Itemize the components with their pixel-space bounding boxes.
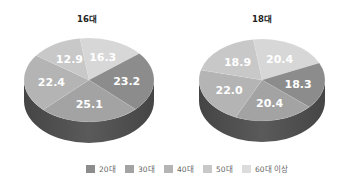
pie-title-16: 16대 bbox=[77, 14, 97, 24]
slice-value-label: 12.9 bbox=[56, 53, 83, 66]
slice-value-label: 23.2 bbox=[113, 75, 140, 88]
slice-value-label: 22.4 bbox=[38, 76, 65, 89]
pie-chart-16: 16대 16.323.225.122.412.9 bbox=[24, 14, 154, 143]
pie-chart-18: 18대 20.418.320.422.018.9 bbox=[199, 14, 325, 142]
legend-swatch-50s bbox=[203, 165, 212, 173]
legend-label-30s: 30대 bbox=[138, 165, 155, 174]
pie-title-18: 18대 bbox=[252, 14, 272, 24]
legend-label-20s: 20대 bbox=[99, 165, 116, 174]
legend-swatch-40s bbox=[164, 165, 173, 173]
slice-value-label: 20.4 bbox=[266, 53, 293, 66]
slice-value-label: 22.0 bbox=[216, 84, 243, 97]
slice-value-label: 18.9 bbox=[224, 56, 251, 69]
slice-value-label: 16.3 bbox=[89, 51, 116, 64]
legend-item-50s: 50대 bbox=[203, 165, 233, 174]
chart-canvas: 16대 16.323.225.122.412.9 18대 20.418.320.… bbox=[0, 0, 348, 189]
legend-label-60s-plus: 60대 이상 bbox=[255, 164, 288, 174]
legend-item-30s: 30대 bbox=[125, 165, 155, 174]
legend-label-40s: 40대 bbox=[177, 165, 194, 174]
legend-item-20s: 20대 bbox=[86, 165, 116, 174]
slice-value-label: 25.1 bbox=[76, 98, 103, 111]
legend-item-40s: 40대 bbox=[164, 165, 194, 174]
slice-value-label: 18.3 bbox=[285, 78, 312, 91]
slice-value-label: 20.4 bbox=[256, 97, 283, 110]
legend: 20대 30대 40대 50대 60대 이상 bbox=[86, 164, 288, 174]
legend-label-50s: 50대 bbox=[216, 165, 233, 174]
legend-swatch-60s-plus bbox=[242, 165, 251, 173]
legend-swatch-20s bbox=[86, 165, 95, 173]
pie-body-18: 20.418.320.422.018.9 bbox=[199, 39, 325, 142]
pie-body-16: 16.323.225.122.412.9 bbox=[24, 38, 154, 143]
legend-swatch-30s bbox=[125, 165, 134, 173]
legend-item-60s-plus: 60대 이상 bbox=[242, 164, 288, 174]
